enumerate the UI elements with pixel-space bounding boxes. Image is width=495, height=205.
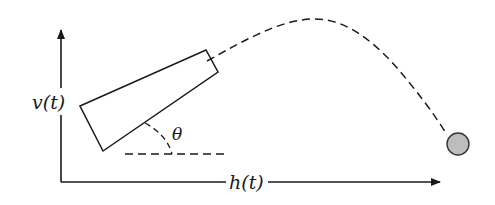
vertical-axis-label: v(t) (32, 91, 65, 113)
projectile-diagram: v(t) h(t) θ (0, 0, 495, 205)
angle-label: θ (172, 124, 182, 144)
projectile-ball (447, 133, 469, 155)
angle-arc (145, 123, 172, 154)
cannon-shape (80, 50, 218, 151)
horizontal-axis-label: h(t) (229, 171, 264, 193)
trajectory-path (207, 19, 447, 135)
